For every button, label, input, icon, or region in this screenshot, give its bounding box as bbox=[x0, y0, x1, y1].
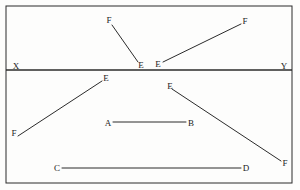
label-d-bottom: D bbox=[243, 164, 250, 173]
label-y-right: Y bbox=[281, 62, 288, 71]
outer-rectangle-border bbox=[6, 6, 292, 183]
label-f-lower-left: F bbox=[11, 129, 16, 138]
label-e-lower-left: E bbox=[103, 74, 109, 83]
diagram-canvas bbox=[0, 0, 300, 190]
label-b-middle: B bbox=[188, 119, 194, 128]
label-e-lower-right: E bbox=[167, 82, 173, 91]
label-e-upper-right: E bbox=[155, 60, 161, 69]
segment-f-e bbox=[112, 25, 138, 62]
segment-e-f bbox=[163, 24, 241, 62]
label-f-upper-right: F bbox=[242, 17, 247, 26]
label-f-upper-left: F bbox=[106, 16, 111, 25]
label-c-bottom: C bbox=[54, 164, 60, 173]
lower-band-segments bbox=[18, 81, 281, 168]
line-diagram-figure: FEEFXYFEABEFCD bbox=[0, 0, 300, 190]
label-a-middle: A bbox=[105, 119, 112, 128]
label-e-upper-left: E bbox=[138, 61, 144, 70]
label-f-lower-right: F bbox=[282, 159, 287, 168]
upper-band-segments bbox=[112, 24, 241, 62]
label-x-left: X bbox=[13, 62, 20, 71]
segment-f-e bbox=[18, 81, 102, 136]
